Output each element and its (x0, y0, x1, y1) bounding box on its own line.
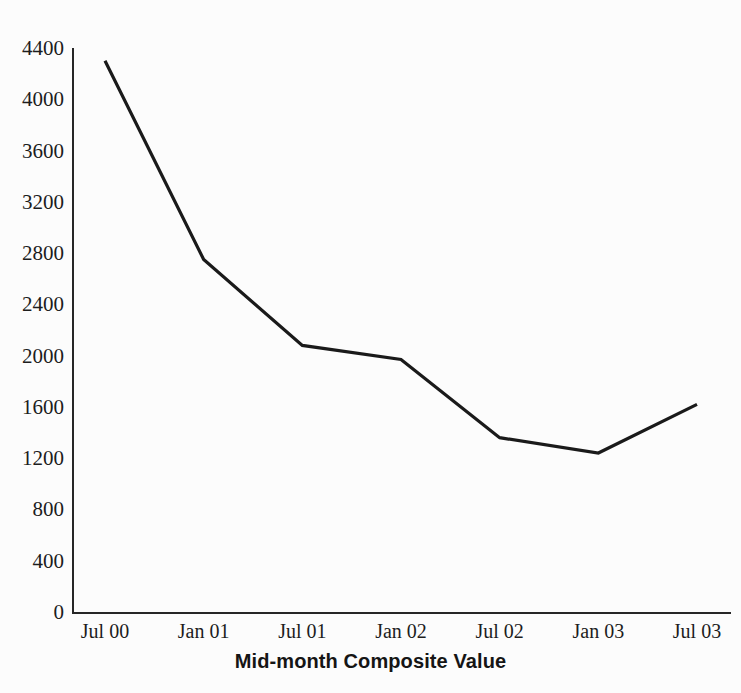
y-axis-line (72, 48, 74, 614)
x-axis-tick-label: Jul 03 (673, 619, 721, 643)
y-axis-tick-labels: 0400800120016002000240028003200360040004… (0, 0, 64, 693)
x-axis-tick-label: Jul 02 (475, 619, 523, 643)
y-axis-tick-label: 2800 (0, 243, 64, 264)
y-axis-tick-label: 3600 (0, 140, 64, 161)
line-chart-figure: 0400800120016002000240028003200360040004… (0, 0, 741, 693)
y-axis-tick-label: 2000 (0, 345, 64, 366)
y-axis-tick-label: 400 (0, 550, 64, 571)
x-axis-title: Mid-month Composite Value (0, 650, 741, 673)
x-axis-tick-label: Jan 01 (178, 619, 230, 643)
x-axis-tick-label: Jan 03 (572, 619, 624, 643)
x-axis-tick-label: Jul 00 (81, 619, 129, 643)
y-axis-tick-label: 1200 (0, 448, 64, 469)
composite-value-line (105, 61, 697, 453)
y-axis-tick-label: 4000 (0, 89, 64, 110)
x-axis-tick-label: Jul 01 (278, 619, 326, 643)
data-series-svg (0, 0, 741, 693)
y-axis-tick-label: 1600 (0, 396, 64, 417)
plot-area: 0400800120016002000240028003200360040004… (0, 0, 741, 693)
y-axis-tick-label: 3200 (0, 191, 64, 212)
x-axis-tick-label: Jan 02 (375, 619, 427, 643)
x-axis-tick-labels: Jul 00Jan 01Jul 01Jan 02Jul 02Jan 03Jul … (0, 619, 741, 649)
y-axis-tick-label: 2400 (0, 294, 64, 315)
y-axis-tick-label: 800 (0, 499, 64, 520)
y-axis-tick-label: 4400 (0, 38, 64, 59)
x-axis-line (72, 612, 731, 614)
